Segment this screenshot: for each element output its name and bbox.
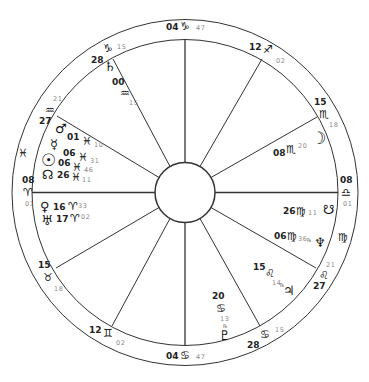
cusp-ic-degree: 04 [166, 352, 179, 361]
cusp-h6-minutes: 21 [326, 262, 335, 269]
saturn-degree: 00 [112, 78, 125, 87]
saturn-icon: ♄ [104, 60, 116, 73]
cancer-icon: ♋ [180, 350, 190, 361]
south-node-minutes: 11 [308, 210, 317, 217]
cusp-dsc-minutes: 01 [343, 201, 352, 208]
mars-degree: 01 [67, 133, 80, 142]
pluto-minutes: 13 [220, 316, 229, 323]
leo-icon: ♌ [265, 268, 275, 279]
cusp-line-h9 [200, 59, 262, 167]
cusp-h3-degree: 12 [89, 326, 102, 335]
scorpio-icon: ♏ [319, 109, 329, 120]
pluto-degree: 20 [212, 292, 225, 301]
cusp-asc-degree: 08 [22, 176, 35, 185]
cancer-icon: ♋ [260, 329, 270, 340]
cusp-h9-degree: 12 [249, 43, 262, 52]
virgo-icon: ♍ [287, 231, 297, 242]
mercury-degree: 06 [63, 149, 76, 158]
libra-icon: ♎ [341, 187, 351, 198]
neptune-degree: 06 [274, 232, 287, 241]
mars-minutes: 10 [94, 142, 103, 149]
aquarius-icon: ♒ [120, 88, 130, 99]
aquarius-icon: ♒ [45, 105, 55, 116]
cusp-h5-minutes: 15 [275, 327, 284, 334]
cancer-icon: ♋ [216, 303, 226, 314]
cusp-line-h3 [112, 219, 170, 327]
cusp-h12-minutes: 21 [53, 96, 62, 103]
cusp-h2-degree: 15 [38, 261, 51, 270]
capricorn-icon: ♑ [103, 43, 113, 54]
south-node-degree: 26 [283, 207, 296, 216]
virgo-icon: ♍ [338, 232, 348, 243]
mercury-minutes: 31 [90, 158, 99, 165]
cusp-h11-degree: 28 [91, 56, 104, 65]
venus-degree: 16 [53, 203, 66, 212]
uranus-minutes: 02 [81, 214, 90, 221]
sun-minutes: 46 [84, 167, 93, 174]
cusp-h3-minutes: 02 [116, 340, 125, 347]
chart-wheel [0, 0, 369, 382]
jupiter-degree: 15 [253, 263, 266, 272]
neptune-icon: ♆ [314, 236, 326, 249]
pluto-icon: ♇ [219, 329, 231, 342]
cusp-mc-minutes: 47 [196, 25, 205, 32]
cusp-h12-degree: 27 [39, 117, 52, 126]
scorpio-icon: ♏ [286, 144, 296, 155]
cusp-line-h5 [200, 219, 260, 327]
moon-degree: 08 [273, 149, 286, 158]
capricorn-icon: ♑ [180, 21, 190, 32]
neptune-minutes: 36 [298, 236, 307, 243]
venus-minutes: 33 [78, 203, 87, 210]
venus-icon: ♀ [40, 200, 50, 213]
sun-degree: 06 [58, 159, 71, 168]
uranus-icon: ♅ [41, 214, 53, 227]
jupiter-icon: ♃ [283, 284, 295, 297]
cusp-h8-degree: 15 [314, 98, 327, 107]
center-hub [155, 163, 215, 223]
moon-minutes: 20 [298, 143, 307, 150]
cusp-h5-degree: 28 [247, 341, 260, 350]
pisces-icon: ♓ [18, 148, 28, 159]
aries-icon: ♈ [70, 213, 80, 224]
cusp-ic-minutes: 47 [196, 354, 205, 361]
pisces-icon: ♓ [82, 136, 92, 147]
north-node-degree: 26 [57, 171, 70, 180]
north-node-minutes: 11 [82, 177, 91, 184]
leo-icon: ♌ [319, 270, 329, 281]
virgo-icon: ♍ [296, 206, 306, 217]
mars-icon: ♂ [55, 122, 67, 135]
taurus-icon: ♉ [43, 272, 53, 283]
cusp-h6-degree: 27 [313, 282, 326, 291]
gemini-icon: ♊ [103, 328, 113, 339]
cusp-h11-minutes: 15 [117, 44, 126, 51]
cusp-h8-minutes: 18 [329, 122, 338, 129]
south-node-icon: ☋ [323, 203, 335, 216]
north-node-icon: ☊ [42, 168, 54, 181]
aries-icon: ♈ [23, 187, 33, 198]
cusp-h9-minutes: 02 [276, 58, 285, 65]
cusp-h2-minutes: 18 [54, 286, 63, 293]
neptune-retrograde-icon: ℞ [307, 238, 311, 243]
uranus-degree: 17 [56, 215, 69, 224]
cusp-mc-degree: 04 [166, 23, 179, 32]
aries-icon: ♈ [68, 201, 78, 212]
sagittarius-icon: ♐ [263, 44, 273, 55]
moon-icon: ☽ [311, 130, 326, 147]
cusp-dsc-degree: 08 [340, 176, 353, 185]
saturn-minutes: 15 [129, 100, 138, 107]
cusp-line-h11 [113, 59, 170, 167]
cusp-asc-minutes: 01 [25, 201, 34, 208]
pisces-icon: ♓ [71, 172, 81, 183]
